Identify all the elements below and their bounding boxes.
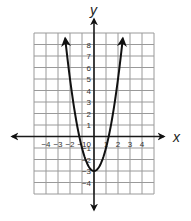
y-tick-label: 3 [87, 98, 92, 107]
y-tick-label: 4 [87, 87, 92, 96]
y-tick-label: 2 [87, 110, 92, 119]
y-tick-label: 5 [87, 75, 92, 84]
y-tick-label: −4 [82, 179, 92, 188]
coordinate-plane: −4−3−2−11234−4−3−2−1123456780 x y [0, 0, 191, 221]
y-axis-label: y [89, 2, 98, 18]
y-tick-label: 7 [87, 52, 92, 61]
x-tick-label: −2 [65, 140, 75, 149]
y-tick-label: 1 [87, 121, 92, 130]
x-tick-label: 4 [140, 140, 145, 149]
y-tick-label: 6 [87, 64, 92, 73]
y-tick-label: 8 [87, 41, 92, 50]
origin-label: 0 [87, 140, 92, 149]
x-tick-label: −4 [41, 140, 51, 149]
x-tick-label: −3 [53, 140, 63, 149]
x-tick-label: 3 [128, 140, 133, 149]
x-axis-label: x [172, 129, 181, 145]
x-tick-label: 2 [116, 140, 121, 149]
